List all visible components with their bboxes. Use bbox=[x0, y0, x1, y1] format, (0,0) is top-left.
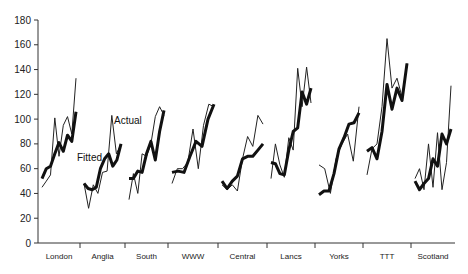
y-tick-label: 40 bbox=[20, 188, 32, 199]
actual-annotation: Actual bbox=[114, 115, 142, 126]
line-chart: 020406080100120140160180 LondonAngliaSou… bbox=[0, 0, 468, 274]
y-tick-label: 140 bbox=[14, 64, 31, 75]
fitted-line-london bbox=[42, 112, 76, 179]
y-tick-label: 160 bbox=[14, 39, 31, 50]
actual-line-lancs bbox=[271, 67, 311, 179]
fitted-line-ttt bbox=[367, 63, 407, 158]
fitted-line-anglia bbox=[84, 144, 121, 190]
fitted-line-scotland bbox=[415, 129, 451, 190]
x-category-label: Lancs bbox=[280, 252, 301, 261]
y-tick-label: 60 bbox=[20, 163, 32, 174]
x-axis: LondonAngliaSouthWWWCentralLancsYorksTTT… bbox=[38, 243, 455, 261]
x-category-label: South bbox=[136, 252, 157, 261]
y-tick-label: 100 bbox=[14, 114, 31, 125]
fitted-line-yorks bbox=[319, 113, 359, 195]
y-tick-label: 0 bbox=[25, 238, 31, 249]
fitted-line-lancs bbox=[271, 88, 311, 175]
x-category-label: Yorks bbox=[329, 252, 349, 261]
fitted-annotation: Fitted bbox=[77, 152, 102, 163]
y-axis: 020406080100120140160180 bbox=[14, 15, 38, 249]
fitted-series bbox=[42, 63, 451, 194]
y-tick-label: 120 bbox=[14, 89, 31, 100]
x-category-label: Anglia bbox=[91, 252, 114, 261]
fitted-line-central bbox=[222, 144, 263, 189]
actual-series bbox=[42, 39, 451, 209]
actual-line-london bbox=[42, 78, 76, 187]
y-tick-label: 180 bbox=[14, 15, 31, 26]
fitted-line-www bbox=[172, 104, 214, 172]
y-tick-label: 80 bbox=[20, 138, 32, 149]
x-category-label: WWW bbox=[182, 252, 205, 261]
x-category-label: TTT bbox=[380, 252, 395, 261]
x-category-label: London bbox=[46, 252, 73, 261]
actual-line-ttt bbox=[367, 39, 407, 175]
y-tick-label: 20 bbox=[20, 213, 32, 224]
x-category-label: Central bbox=[230, 252, 256, 261]
actual-line-scotland bbox=[415, 86, 451, 190]
x-category-label: Scotland bbox=[417, 252, 448, 261]
